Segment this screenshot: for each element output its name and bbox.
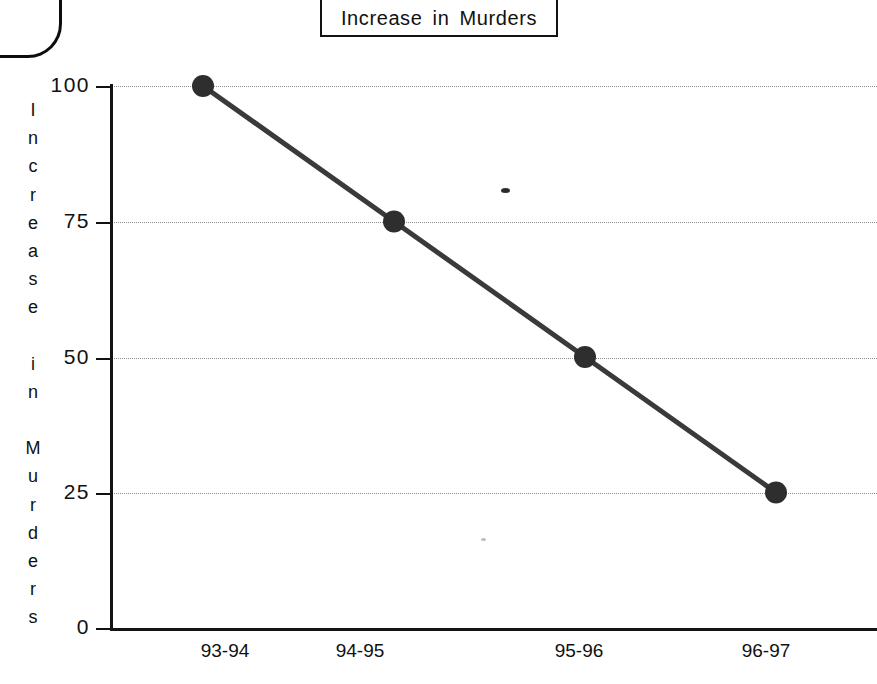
data-point-93-94	[192, 75, 214, 97]
scan-speck-artifact	[481, 538, 486, 541]
series-line	[203, 86, 776, 493]
chart-page: Increase in Murders I n c r e a s e i n …	[0, 0, 877, 684]
data-series	[0, 0, 877, 684]
plot-area: 100 75 50 25 0 93-94 94-95 95-96 96-97	[0, 0, 877, 684]
data-point-95-96	[574, 346, 596, 368]
data-point-96-97	[765, 482, 787, 504]
data-point-94-95	[383, 211, 405, 233]
scan-speck-artifact	[501, 188, 510, 193]
